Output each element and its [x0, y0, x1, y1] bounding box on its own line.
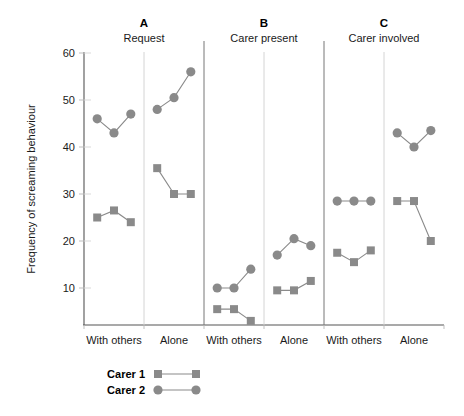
data-point-carer-2: [126, 110, 135, 119]
y-tick-label: 50: [63, 94, 75, 106]
data-point-carer-2: [93, 114, 102, 123]
data-point-carer-1: [333, 249, 341, 257]
legend-marker-square: [154, 370, 162, 378]
data-point-carer-1: [427, 237, 435, 245]
data-point-carer-1: [93, 214, 101, 222]
data-point-carer-1: [110, 206, 118, 214]
data-point-carer-1: [273, 286, 281, 294]
data-point-carer-1: [170, 190, 178, 198]
data-point-carer-1: [307, 277, 315, 285]
data-point-carer-1: [187, 190, 195, 198]
legend-label-carer-1: Carer 1: [107, 368, 145, 380]
chart-figure: 102030405060Frequency of screaming behav…: [0, 0, 464, 416]
series-line-carer-1: [397, 201, 431, 241]
legend-marker-circle: [191, 385, 200, 394]
legend-label-carer-2: Carer 2: [107, 384, 145, 396]
y-axis-title: Frequency of screaming behaviour: [25, 104, 37, 274]
x-category-label: Alone: [400, 334, 428, 346]
data-point-carer-1: [350, 258, 358, 266]
panel-letter-B: B: [260, 17, 268, 29]
data-point-carer-2: [289, 234, 298, 243]
x-category-label: Alone: [280, 334, 308, 346]
data-point-carer-1: [247, 317, 255, 325]
data-point-carer-1: [410, 197, 418, 205]
x-category-label: With others: [86, 334, 142, 346]
x-category-label: With others: [326, 334, 382, 346]
data-point-carer-1: [393, 197, 401, 205]
data-point-carer-2: [246, 265, 255, 274]
data-point-carer-2: [153, 105, 162, 114]
screaming-behaviour-line-chart: 102030405060Frequency of screaming behav…: [0, 0, 464, 416]
y-tick-label: 40: [63, 141, 75, 153]
data-point-carer-2: [393, 128, 402, 137]
data-point-carer-2: [273, 251, 282, 260]
data-point-carer-2: [169, 93, 178, 102]
data-point-carer-1: [153, 164, 161, 172]
panel-subtitle-C: Carer involved: [349, 32, 420, 44]
data-point-carer-2: [333, 196, 342, 205]
data-point-carer-2: [109, 128, 118, 137]
data-point-carer-1: [127, 218, 135, 226]
data-point-carer-2: [366, 196, 375, 205]
y-tick-label: 60: [63, 47, 75, 59]
data-point-carer-2: [229, 283, 238, 292]
data-point-carer-1: [213, 305, 221, 313]
data-point-carer-1: [290, 286, 298, 294]
panel-subtitle-A: Request: [124, 32, 165, 44]
y-tick-label: 20: [63, 235, 75, 247]
data-point-carer-1: [367, 246, 375, 254]
series-line-carer-2: [157, 72, 191, 110]
panel-subtitle-B: Carer present: [230, 32, 297, 44]
y-tick-label: 30: [63, 188, 75, 200]
data-point-carer-2: [409, 142, 418, 151]
x-category-label: Alone: [160, 334, 188, 346]
data-point-carer-2: [186, 67, 195, 76]
data-point-carer-2: [213, 283, 222, 292]
data-point-carer-2: [349, 196, 358, 205]
y-tick-label: 10: [63, 282, 75, 294]
panel-letter-A: A: [140, 17, 148, 29]
x-category-label: With others: [206, 334, 262, 346]
data-point-carer-2: [426, 126, 435, 135]
legend-marker-circle: [153, 385, 162, 394]
data-point-carer-2: [306, 241, 315, 250]
panel-letter-C: C: [380, 17, 388, 29]
data-point-carer-1: [230, 305, 238, 313]
legend-marker-square: [192, 370, 200, 378]
